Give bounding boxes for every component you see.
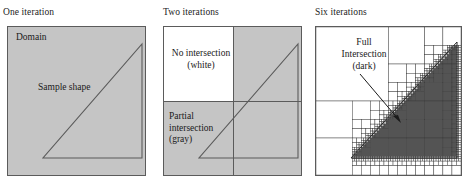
quadtree-cell: [432, 159, 434, 161]
quadtree-cell: [447, 55, 452, 60]
quadtree-cell: [452, 87, 457, 92]
quadtree-cell: [370, 124, 375, 129]
quadtree-cell: [459, 89, 461, 91]
quadtree-cell: [459, 106, 461, 108]
quadtree-cell: [416, 92, 425, 101]
quadtree-cell: [352, 138, 357, 143]
quadtree-cell: [370, 131, 372, 133]
quadtree-cell: [386, 159, 388, 161]
quadtree-cell: [382, 126, 384, 128]
quadtree-cell: [398, 92, 403, 97]
quadtree-cell: [452, 92, 457, 97]
quadtree-cell: [452, 115, 457, 120]
quadtree-cell: [459, 80, 461, 82]
quadtree-cell: [418, 85, 420, 87]
quadtree-cell: [379, 122, 381, 124]
quadtree-cell: [425, 138, 443, 157]
quadtree-cell: [361, 159, 363, 161]
quadtree-cell: [366, 159, 368, 161]
sample-triangle-panel1: [8, 27, 145, 175]
quadtree-cell: [445, 57, 447, 59]
quadtree-cell: [377, 159, 379, 161]
quadtree-cell: [393, 161, 398, 166]
quadtree-cell: [443, 101, 452, 110]
quadtree-cell: [389, 159, 391, 161]
quadtree-cell: [459, 131, 461, 133]
quadtree-cell: [445, 50, 447, 52]
quadtree-cell: [438, 55, 440, 57]
quadtree-cell: [459, 46, 461, 48]
quadtree-cell: [420, 73, 422, 75]
quadtree-cell: [452, 48, 454, 50]
quadtree-cell: [413, 92, 415, 94]
quadtree-cell: [452, 166, 461, 175]
quadtree-cell: [357, 143, 359, 145]
quadtree-cell: [443, 110, 452, 119]
quadtree-cell: [366, 136, 368, 138]
quadtree-cell: [452, 161, 457, 166]
quadtree-cell: [420, 87, 425, 92]
quadtree-cell: [459, 140, 461, 142]
quadtree-cell: [366, 143, 371, 148]
quadtree-cell: [364, 145, 366, 147]
quadtree-cell: [361, 161, 366, 166]
quadtree-cell: [368, 133, 370, 135]
quadtree-cell: [389, 92, 398, 101]
quadtree-cell: [438, 161, 443, 166]
quadtree-cell: [434, 62, 436, 64]
quadtree-cell: [434, 55, 439, 60]
panel-one-iteration-canvas: Domain Sample shape: [7, 26, 146, 176]
quadtree-cell: [459, 147, 461, 149]
quadtree-cell: [452, 64, 457, 69]
quadtree-cell: [443, 27, 461, 46]
quadtree-cell: [407, 83, 412, 88]
quadtree-cell: [425, 71, 427, 73]
quadtree-cell: [422, 159, 424, 161]
quadtree-cell: [459, 66, 461, 68]
quadtree-cell: [355, 147, 357, 149]
quadtree-cell: [427, 159, 429, 161]
quadtree-cell: [375, 161, 380, 166]
quadtree-cell: [459, 152, 461, 154]
quadtree-cell: [443, 52, 445, 54]
quadtree-cell: [420, 161, 425, 166]
quadtree-cell: [443, 129, 452, 138]
quadtree-cell: [416, 166, 425, 175]
quadtree-cell: [452, 138, 457, 143]
quadtree-cell: [459, 59, 461, 61]
quadtree-cell: [452, 147, 457, 152]
quadtree-cell: [352, 147, 354, 149]
quadtree-cell: [379, 159, 381, 161]
quadtree-cell: [450, 52, 452, 54]
quadtree-cell: [370, 110, 379, 119]
quadtree-cell: [370, 166, 379, 175]
quadtree-cell: [443, 92, 452, 101]
quadtree-cell: [443, 73, 452, 82]
quadtree-cell: [459, 78, 461, 80]
quadtree-cell: [459, 76, 461, 78]
quadtree-cell: [361, 133, 366, 138]
quadtree-cell: [355, 154, 357, 156]
quadtree-cell: [400, 159, 402, 161]
quadtree-cell: [361, 147, 370, 156]
quadtree-cell: [425, 166, 434, 175]
quadtree-cell: [452, 120, 457, 125]
quadtree-cell: [434, 59, 436, 61]
quadtree-cell: [456, 161, 461, 166]
quadtree-cell: [443, 46, 448, 51]
quadtree-cell: [391, 115, 393, 117]
label-full-intersection: Full Intersection (dark): [321, 36, 407, 72]
quadtree-cell: [370, 161, 375, 166]
quadtree-cell: [425, 27, 443, 46]
quadtree-cell: [459, 122, 461, 124]
quadtree-cell: [416, 64, 425, 73]
quadtree-cell: [452, 73, 457, 78]
quadtree-cell: [425, 83, 443, 102]
quadtree-cell: [459, 113, 461, 115]
quadtree-cell: [459, 157, 461, 159]
quadtree-cell: [447, 46, 449, 48]
quadtree-cell: [316, 101, 352, 138]
quadtree-cell: [443, 59, 448, 64]
quadtree-cell: [316, 138, 352, 175]
quadtree-cell: [459, 101, 461, 103]
